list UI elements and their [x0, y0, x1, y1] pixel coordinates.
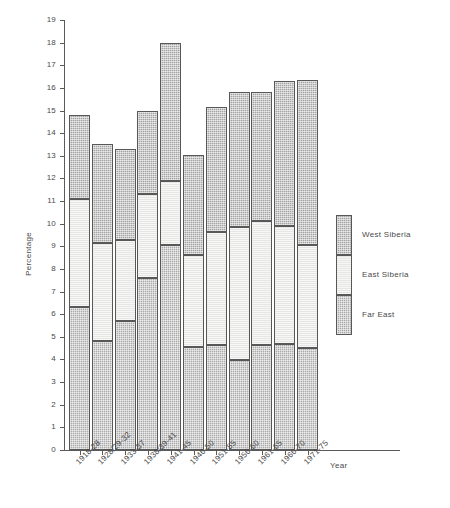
legend-label-east-siberia: East Siberia	[362, 270, 409, 279]
bar-segment-east-siberia	[137, 194, 158, 278]
y-tick-mark	[60, 382, 64, 383]
bar-1918-28	[69, 0, 90, 455]
y-tick-label: 1	[34, 423, 56, 431]
legend-swatch-west-siberia	[336, 215, 352, 255]
bar-segment-east-siberia	[274, 226, 295, 344]
y-axis-title: Percentage	[24, 232, 33, 276]
bar-segment-east-siberia	[160, 181, 181, 246]
y-tick-label: 13	[34, 152, 56, 160]
y-tick-label: 14	[34, 129, 56, 137]
legend-label-west-siberia: West Siberia	[362, 230, 411, 239]
y-tick-mark	[60, 133, 64, 134]
bar-1961-65	[251, 0, 272, 455]
bar-segment-west-siberia	[251, 92, 272, 221]
bar-segment-far-east	[69, 307, 90, 450]
y-tick-label: 12	[34, 174, 56, 182]
y-tick-mark	[60, 156, 64, 157]
y-tick-mark	[60, 88, 64, 89]
bar-segment-far-east	[183, 347, 204, 450]
y-tick-label: 18	[34, 39, 56, 47]
bar-segment-west-siberia	[297, 80, 318, 245]
legend-swatch-east-siberia	[336, 255, 352, 295]
bar-1951-55	[206, 0, 227, 455]
bar-segment-far-east	[229, 360, 250, 450]
bar-1966-70	[274, 0, 295, 455]
bar-1956-60	[229, 0, 250, 455]
y-tick-label: 7	[34, 288, 56, 296]
bar-1971-75	[297, 0, 318, 455]
y-tick-label: 6	[34, 310, 56, 318]
bar-1933-37	[115, 0, 136, 455]
bar-segment-east-siberia	[183, 255, 204, 347]
bar-segment-west-siberia	[274, 81, 295, 226]
bar-segment-west-siberia	[183, 155, 204, 256]
y-tick-mark	[60, 314, 64, 315]
legend-label-far-east: Far East	[362, 310, 395, 319]
y-tick-label: 8	[34, 265, 56, 273]
y-tick-mark	[60, 359, 64, 360]
bar-segment-west-siberia	[115, 149, 136, 240]
y-tick-mark	[60, 65, 64, 66]
bar-segment-west-siberia	[92, 144, 113, 242]
y-tick-mark	[60, 427, 64, 428]
bar-segment-east-siberia	[251, 221, 272, 344]
bar-segment-far-east	[274, 344, 295, 450]
stacked-bar-chart: Percentage 01234567891011121314151617181…	[0, 0, 450, 508]
y-tick-label: 0	[34, 446, 56, 454]
y-tick-mark	[60, 292, 64, 293]
x-axis-title: Year	[330, 461, 347, 470]
y-tick-mark	[60, 405, 64, 406]
y-tick-label: 17	[34, 61, 56, 69]
bar-1946-50	[183, 0, 204, 455]
y-tick-label: 2	[34, 401, 56, 409]
bar-segment-far-east	[297, 348, 318, 450]
y-tick-label: 4	[34, 355, 56, 363]
y-tick-mark	[60, 201, 64, 202]
bar-segment-east-siberia	[229, 227, 250, 360]
y-tick-mark	[60, 111, 64, 112]
bar-segment-east-siberia	[115, 240, 136, 321]
bar-segment-far-east	[160, 245, 181, 450]
bar-segment-west-siberia	[69, 115, 90, 199]
y-tick-mark	[60, 43, 64, 44]
y-tick-label: 19	[34, 16, 56, 24]
y-tick-label: 5	[34, 333, 56, 341]
y-tick-label: 15	[34, 107, 56, 115]
bar-segment-far-east	[206, 345, 227, 450]
bar-segment-east-siberia	[69, 199, 90, 308]
y-tick-mark	[60, 246, 64, 247]
bar-segment-east-siberia	[206, 232, 227, 345]
bar-1941-45	[160, 0, 181, 455]
y-tick-label: 9	[34, 242, 56, 250]
y-tick-mark	[60, 269, 64, 270]
bar-1928/29-32	[92, 0, 113, 455]
y-tick-label: 16	[34, 84, 56, 92]
y-axis-line	[64, 20, 65, 451]
bar-segment-west-siberia	[137, 111, 158, 195]
y-tick-mark	[60, 450, 64, 451]
y-tick-mark	[60, 20, 64, 21]
bar-1938/39-41	[137, 0, 158, 455]
y-tick-mark	[60, 178, 64, 179]
y-tick-label: 3	[34, 378, 56, 386]
bar-segment-far-east	[92, 341, 113, 450]
legend-swatch-far-east	[336, 295, 352, 335]
y-tick-mark	[60, 224, 64, 225]
bar-segment-east-siberia	[92, 243, 113, 341]
bar-segment-west-siberia	[160, 43, 181, 181]
bar-segment-west-siberia	[229, 92, 250, 227]
bar-segment-east-siberia	[297, 245, 318, 348]
bar-segment-far-east	[137, 278, 158, 450]
y-tick-mark	[60, 337, 64, 338]
bar-segment-far-east	[251, 345, 272, 450]
bar-segment-west-siberia	[206, 107, 227, 231]
y-tick-label: 10	[34, 220, 56, 228]
y-tick-label: 11	[34, 197, 56, 205]
